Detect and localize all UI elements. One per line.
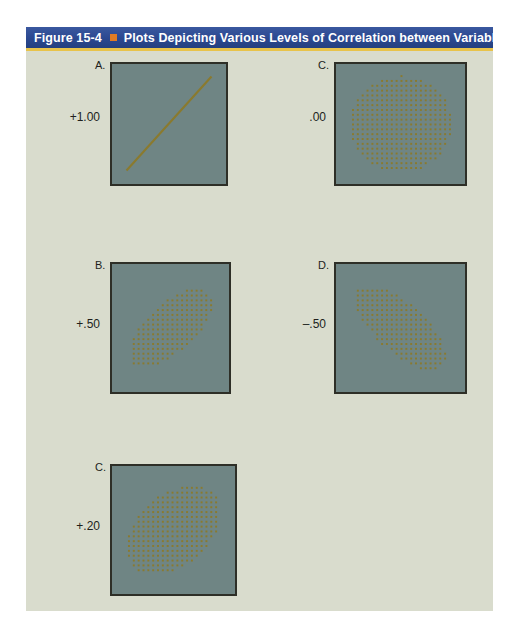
data-point xyxy=(391,99,393,101)
data-point xyxy=(191,295,193,297)
data-point xyxy=(157,362,159,364)
data-point xyxy=(425,128,427,130)
data-point xyxy=(391,90,393,92)
data-point xyxy=(405,167,407,169)
data-point xyxy=(401,167,403,169)
data-point xyxy=(362,319,364,321)
data-point xyxy=(176,333,178,335)
data-point xyxy=(381,324,383,326)
data-point xyxy=(410,124,412,126)
data-point xyxy=(420,162,422,164)
data-point xyxy=(386,114,388,116)
data-point xyxy=(157,526,159,528)
data-point xyxy=(410,99,412,101)
data-point xyxy=(396,328,398,330)
data-point xyxy=(405,333,407,335)
data-point xyxy=(391,148,393,150)
data-point xyxy=(171,338,173,340)
data-point xyxy=(162,314,164,316)
data-point xyxy=(381,148,383,150)
data-point xyxy=(415,153,417,155)
data-point xyxy=(439,114,441,116)
data-point xyxy=(172,521,174,523)
data-point xyxy=(425,353,427,355)
data-point xyxy=(371,90,373,92)
data-point xyxy=(376,119,378,121)
data-point xyxy=(162,358,164,360)
data-point xyxy=(405,138,407,140)
data-point xyxy=(396,143,398,145)
data-point xyxy=(172,511,174,513)
data-point xyxy=(186,545,188,547)
data-point xyxy=(181,526,183,528)
data-point xyxy=(210,521,212,523)
data-point xyxy=(196,526,198,528)
data-point xyxy=(152,353,154,355)
data-point xyxy=(157,560,159,562)
panel-letter-a: A. xyxy=(95,59,105,71)
data-point xyxy=(186,333,188,335)
data-point xyxy=(396,104,398,106)
data-point xyxy=(362,138,364,140)
data-point xyxy=(444,124,446,126)
data-point xyxy=(444,133,446,135)
data-point xyxy=(205,295,207,297)
data-point xyxy=(410,314,412,316)
data-point xyxy=(176,545,178,547)
data-point xyxy=(439,338,441,340)
data-point xyxy=(201,550,203,552)
figure-header-bar: Figure 15-4 Plots Depicting Various Leve… xyxy=(26,27,493,48)
data-point xyxy=(386,319,388,321)
data-point xyxy=(201,545,203,547)
data-point xyxy=(133,362,135,364)
data-point xyxy=(181,560,183,562)
data-point xyxy=(371,290,373,292)
data-point xyxy=(181,319,183,321)
data-point xyxy=(391,333,393,335)
data-point xyxy=(415,94,417,96)
data-point xyxy=(147,348,149,350)
data-point xyxy=(196,333,198,335)
data-point xyxy=(143,564,145,566)
data-point xyxy=(405,104,407,106)
data-point xyxy=(434,128,436,130)
data-point xyxy=(181,487,183,489)
data-point xyxy=(386,138,388,140)
data-point xyxy=(405,157,407,159)
data-point xyxy=(186,526,188,528)
data-point xyxy=(171,333,173,335)
data-point xyxy=(391,309,393,311)
data-point xyxy=(162,501,164,503)
data-point xyxy=(391,328,393,330)
data-point xyxy=(415,319,417,321)
data-point xyxy=(181,516,183,518)
data-point xyxy=(210,304,212,306)
data-point xyxy=(171,319,173,321)
data-point xyxy=(405,338,407,340)
data-point xyxy=(425,133,427,135)
panel-c-zero: C. .00 xyxy=(262,51,482,201)
data-point xyxy=(444,99,446,101)
data-point xyxy=(430,138,432,140)
data-point xyxy=(172,560,174,562)
data-point xyxy=(405,124,407,126)
data-point xyxy=(444,114,446,116)
data-point xyxy=(376,304,378,306)
data-point xyxy=(181,555,183,557)
data-point xyxy=(162,516,164,518)
data-point xyxy=(415,138,417,140)
data-point xyxy=(444,128,446,130)
data-point xyxy=(181,545,183,547)
data-point xyxy=(386,290,388,292)
data-point xyxy=(181,328,183,330)
data-point xyxy=(367,124,369,126)
data-point xyxy=(410,324,412,326)
data-point xyxy=(386,157,388,159)
data-point xyxy=(172,492,174,494)
data-point xyxy=(381,153,383,155)
data-point xyxy=(371,128,373,130)
data-point xyxy=(162,560,164,562)
data-point xyxy=(196,314,198,316)
data-point xyxy=(362,94,364,96)
data-point xyxy=(405,324,407,326)
